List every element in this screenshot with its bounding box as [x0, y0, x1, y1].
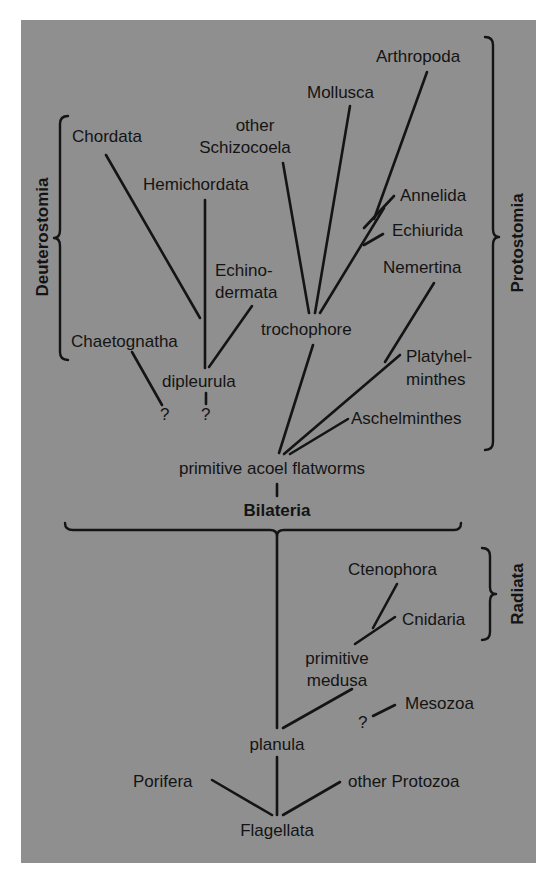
- taxon-platyhelminthes-line1: Platyhel-: [406, 347, 472, 366]
- unknown-ancestor-3: ?: [358, 713, 367, 732]
- taxon-mesozoa: Mesozoa: [405, 694, 475, 713]
- deuterostomia-label: Deuterostomia: [33, 177, 52, 297]
- taxon-nemertina: Nemertina: [383, 258, 462, 277]
- node-dipleurula: dipleurula: [162, 372, 236, 391]
- radiata-label: Radiata: [508, 563, 527, 625]
- node-primitive-medusa-line1: primitive: [305, 649, 368, 668]
- taxon-mollusca: Mollusca: [307, 83, 375, 102]
- taxon-cnidaria: Cnidaria: [402, 610, 466, 629]
- taxon-other-schizocoela-line1: other: [236, 116, 275, 135]
- protostomia-label: Protostomia: [508, 193, 527, 293]
- taxon-other-schizocoela-line2: Schizocoela: [199, 138, 291, 157]
- node-trochophore: trochophore: [261, 320, 352, 339]
- taxon-echiurida: Echiurida: [392, 221, 463, 240]
- taxon-chaetognatha: Chaetognatha: [71, 332, 178, 351]
- unknown-ancestor-1: ?: [160, 405, 169, 424]
- node-primitive-acoel-flatworms: primitive acoel flatworms: [179, 459, 365, 478]
- taxon-annelida: Annelida: [400, 186, 467, 205]
- bilateria-label: Bilateria: [243, 501, 311, 520]
- node-primitive-medusa-line2: medusa: [307, 671, 368, 690]
- node-flagellata: Flagellata: [240, 821, 314, 840]
- taxon-arthropoda: Arthropoda: [376, 47, 461, 66]
- unknown-ancestor-2: ?: [201, 405, 210, 424]
- taxon-porifera: Porifera: [133, 772, 193, 791]
- taxon-other-protozoa: other Protozoa: [348, 772, 460, 791]
- taxon-echinodermata-line1: Echino-: [215, 261, 273, 280]
- taxon-platyhelminthes-line2: minthes: [406, 370, 466, 389]
- taxon-echinodermata-line2: dermata: [215, 283, 278, 302]
- node-planula: planula: [250, 735, 305, 754]
- taxon-aschelminthes: Aschelminthes: [351, 409, 462, 428]
- phylogeny-diagram: Deuterostomia Protostomia Radiata Bilate…: [0, 0, 557, 885]
- taxon-ctenophora: Ctenophora: [348, 560, 437, 579]
- taxon-chordata: Chordata: [72, 127, 142, 146]
- taxon-hemichordata: Hemichordata: [143, 175, 249, 194]
